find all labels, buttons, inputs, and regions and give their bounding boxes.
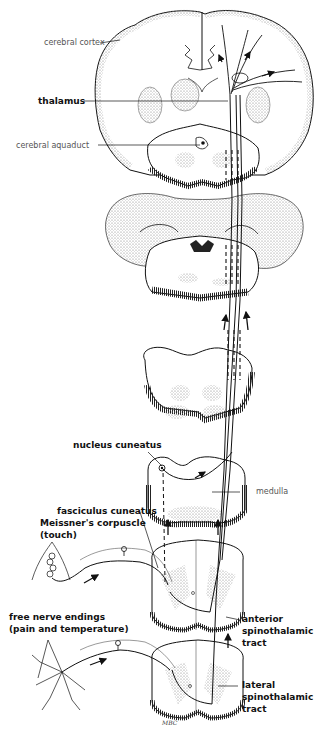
cerebellum-section (106, 194, 304, 298)
label-nucleus-cuneatus: nucleus cuneatus (73, 440, 162, 451)
lower-cord-section (152, 640, 243, 718)
label-pain-temperature: (pain and temperature) (9, 624, 129, 635)
label-thalamus: thalamus (38, 96, 85, 107)
artist-signature: MBC (162, 719, 177, 726)
upper-medulla-section (144, 347, 252, 420)
cervical-cord-section (152, 540, 243, 630)
basal-ganglia-right (246, 87, 270, 123)
label-meissners-touch: (touch) (40, 530, 77, 541)
label-meissners-corpuscle: Meissner's corpuscle (40, 518, 146, 529)
label-fasciculus-cuneatus: fasciculus cuneatus (57, 506, 157, 517)
meissners-corpuscle (32, 542, 172, 585)
label-cerebral-aquaduct: cerebral aquaduct (16, 140, 89, 151)
label-anterior-line2: spinothalamic (242, 626, 313, 637)
basal-ganglia-left (138, 87, 162, 123)
label-lateral-line3: tract (242, 704, 266, 715)
label-anterior-line1: anterior (242, 614, 283, 625)
basal-ganglia-center (171, 79, 199, 111)
label-lateral-line2: spinothalamic (242, 692, 313, 703)
label-anterior-line3: tract (242, 638, 266, 649)
label-cerebral-cortex: cerebral cortex (44, 37, 105, 48)
label-medulla: medulla (256, 486, 288, 497)
label-lateral-line1: lateral (242, 680, 275, 691)
label-free-nerve-endings: free nerve endings (9, 612, 105, 623)
